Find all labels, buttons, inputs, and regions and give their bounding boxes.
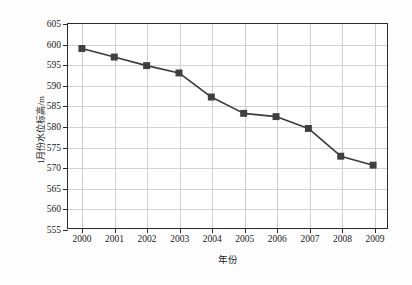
data-point-marker: [78, 45, 85, 52]
x-tick-label: 2008: [333, 234, 352, 244]
x-tick-label: 2003: [170, 234, 189, 244]
x-tick-label: 2006: [268, 234, 287, 244]
y-tick-label: 590: [47, 81, 61, 91]
x-tick-label: 2005: [235, 234, 254, 244]
x-tick-label: 2000: [73, 234, 92, 244]
x-tick-mark: [277, 228, 278, 233]
x-tick-mark: [245, 228, 246, 233]
x-tick-mark: [115, 228, 116, 233]
y-tick-mark: [63, 230, 68, 231]
x-tick-mark: [147, 228, 148, 233]
y-tick-label: 585: [47, 101, 61, 111]
x-tick-label: 2002: [138, 234, 157, 244]
x-tick-mark: [310, 228, 311, 233]
chart-figure: 1月份水位标高/m 555560565570575580585590595600…: [0, 0, 412, 285]
y-tick-label: 565: [47, 184, 61, 194]
y-tick-label: 580: [47, 122, 61, 132]
data-point-marker: [208, 94, 215, 101]
data-point-marker: [337, 153, 344, 160]
y-tick-label: 575: [47, 143, 61, 153]
data-point-marker: [240, 110, 247, 117]
data-point-marker: [273, 113, 280, 120]
x-tick-label: 2009: [366, 234, 385, 244]
plot-area: 555560565570575580585590595600605 200020…: [67, 23, 388, 229]
data-point-marker: [143, 62, 150, 69]
x-tick-label: 2004: [203, 234, 222, 244]
data-point-marker: [175, 69, 182, 76]
y-tick-label: 605: [47, 19, 61, 29]
x-axis-title: 年份: [67, 252, 388, 266]
y-tick-label: 560: [47, 204, 61, 214]
x-tick-mark: [82, 228, 83, 233]
x-tick-mark: [180, 228, 181, 233]
y-tick-label: 555: [47, 225, 61, 235]
x-tick-label: 2001: [105, 234, 124, 244]
x-tick-mark: [342, 228, 343, 233]
series-line: [68, 24, 387, 228]
y-tick-label: 595: [47, 60, 61, 70]
data-point-marker: [111, 54, 118, 61]
x-tick-mark: [375, 228, 376, 233]
y-tick-label: 600: [47, 40, 61, 50]
data-point-marker: [370, 162, 377, 169]
data-point-marker: [305, 125, 312, 132]
x-tick-label: 2007: [300, 234, 319, 244]
y-tick-label: 570: [47, 163, 61, 173]
x-tick-mark: [212, 228, 213, 233]
